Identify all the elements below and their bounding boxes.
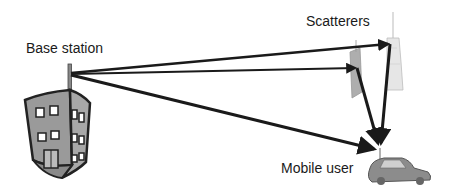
path-scatterer-1-to-mobile — [357, 68, 378, 143]
antenna-icon — [68, 64, 72, 90]
building-icon — [25, 64, 90, 178]
path-scatterer-2-to-mobile — [381, 44, 390, 143]
car-icon — [368, 148, 430, 185]
propagation-diagram — [0, 0, 456, 196]
path-line-of-sight — [71, 75, 374, 149]
propagation-paths — [71, 44, 390, 149]
